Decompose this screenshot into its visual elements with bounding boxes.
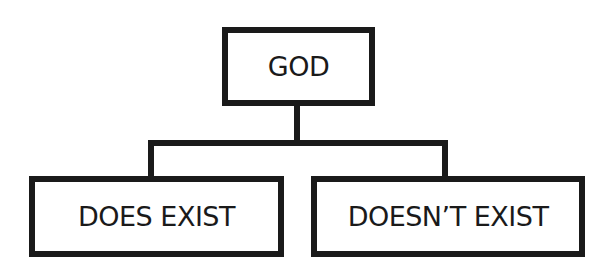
node-does-exist: DOES EXIST [29, 176, 284, 257]
connector-drop-right [442, 140, 448, 178]
node-does-exist-label: DOES EXIST [78, 201, 235, 232]
node-root-label: GOD [268, 51, 329, 82]
connector-drop-left [148, 140, 154, 178]
node-root: GOD [222, 27, 375, 106]
connector-horizontal-bar [148, 140, 448, 146]
node-doesnt-exist-label: DOESN’T EXIST [348, 201, 549, 232]
node-doesnt-exist: DOESN’T EXIST [311, 176, 585, 257]
